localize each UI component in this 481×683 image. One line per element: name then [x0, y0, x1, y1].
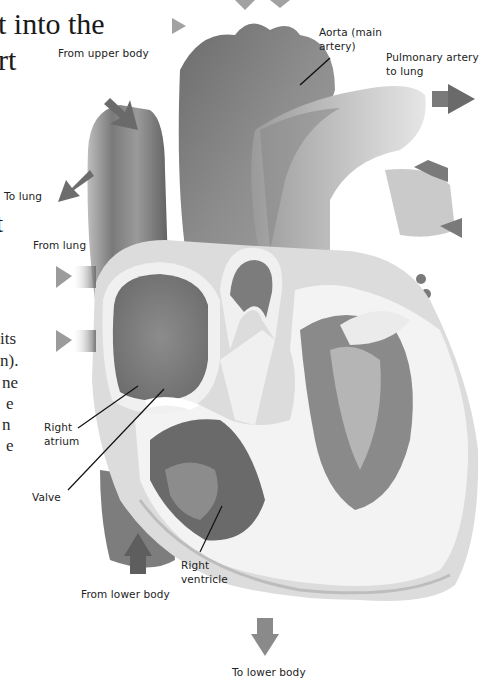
label-right-atrium-line-1: Right: [44, 420, 79, 434]
label-from-upper-body: From upper body: [58, 46, 149, 60]
arrow-from-lung-left-1: [56, 266, 96, 288]
label-from-lower-body: From lower body: [81, 587, 170, 601]
right-atrium-cavity: [113, 274, 208, 400]
arrow-to-lower-body: [251, 618, 279, 656]
label-aorta: Aorta (main artery): [319, 25, 382, 53]
heart-illustration: [0, 0, 481, 683]
label-to-lower-body: To lower body: [232, 665, 306, 679]
label-right-ventricle-line-1: Right: [181, 558, 228, 572]
label-right-ventricle-line-2: ventricle: [181, 572, 228, 586]
label-from-lung: From lung: [33, 238, 86, 252]
label-pulmonary-artery: Pulmonary artery to lung: [386, 50, 479, 78]
label-pulmonary-line-1: Pulmonary artery: [386, 50, 479, 64]
label-right-atrium-line-2: atrium: [44, 434, 79, 448]
label-aorta-line-2: artery): [319, 39, 382, 53]
arrow-top-stub: [172, 0, 290, 34]
arrow-pulmonary-to-lung: [432, 84, 475, 114]
label-right-atrium: Right atrium: [44, 420, 79, 448]
label-aorta-line-1: Aorta (main: [319, 25, 382, 39]
heart-diagram-page: t into the rt t its n). ne e n e: [0, 0, 481, 683]
arrow-from-lung-left-2: [56, 330, 96, 352]
label-pulmonary-line-2: to lung: [386, 64, 479, 78]
label-right-ventricle: Right ventricle: [181, 558, 228, 586]
label-to-lung: To lung: [4, 189, 42, 203]
label-valve: Valve: [32, 490, 61, 504]
